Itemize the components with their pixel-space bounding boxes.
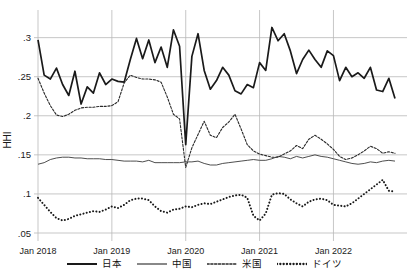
legend-entry-3[interactable]: ドイツ bbox=[277, 259, 342, 269]
y-tick-label: .05 bbox=[18, 228, 31, 239]
y-axis-title: HHI bbox=[2, 131, 13, 148]
y-tick-label: .3 bbox=[23, 32, 31, 43]
legend-swatch-0 bbox=[67, 259, 97, 269]
series-line-3 bbox=[38, 180, 395, 221]
chart-plot-area: .05.1.15.2.25.3 Jan 2018Jan 2019Jan 2020… bbox=[0, 0, 409, 276]
chart-legend: 日本中国米国ドイツ bbox=[0, 254, 409, 274]
legend-swatch-3 bbox=[277, 259, 307, 269]
legend-swatch-2 bbox=[207, 259, 237, 269]
legend-entry-1[interactable]: 中国 bbox=[137, 259, 192, 269]
series-line-1 bbox=[38, 155, 395, 165]
y-tick-label: .2 bbox=[23, 110, 31, 121]
legend-label-0: 日本 bbox=[102, 259, 122, 269]
y-tick-label: .1 bbox=[23, 188, 31, 199]
series-line-2 bbox=[38, 75, 395, 167]
hhi-line-chart: .05.1.15.2.25.3 Jan 2018Jan 2019Jan 2020… bbox=[0, 0, 409, 276]
y-axis-tick-labels: .05.1.15.2.25.3 bbox=[18, 32, 31, 238]
y-tick-label: .15 bbox=[18, 149, 31, 160]
legend-label-3: ドイツ bbox=[312, 259, 342, 269]
legend-swatch-1 bbox=[137, 259, 167, 269]
data-series-group bbox=[38, 27, 395, 220]
legend-entry-2[interactable]: 米国 bbox=[207, 259, 262, 269]
legend-entry-0[interactable]: 日本 bbox=[67, 259, 122, 269]
y-tick-label: .25 bbox=[18, 71, 31, 82]
legend-label-2: 米国 bbox=[242, 259, 262, 269]
series-line-0 bbox=[38, 27, 395, 144]
legend-label-1: 中国 bbox=[172, 259, 192, 269]
